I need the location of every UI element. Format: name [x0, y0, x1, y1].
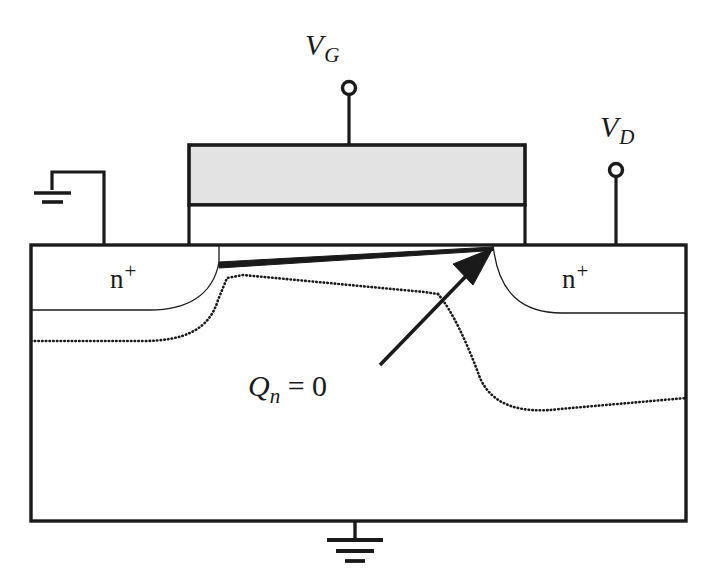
drain-voltage-label: VD	[600, 110, 635, 149]
pinchoff-subscript: n	[270, 384, 281, 408]
gate-electrode	[189, 145, 525, 205]
mosfet-cross-section-diagram: VG VD n+ n+ Qn = 0	[0, 0, 715, 583]
drain-terminal-lead	[610, 164, 623, 247]
gate-voltage-subscript: G	[324, 43, 339, 67]
figure-canvas: VG VD n+ n+ Qn = 0	[0, 0, 715, 583]
gate-terminal-lead	[343, 82, 356, 147]
source-region-superscript: +	[125, 259, 137, 283]
pinchoff-symbol: Q	[248, 369, 270, 402]
drain-region-base: n	[562, 264, 576, 294]
gate-stack	[189, 145, 525, 246]
gate-terminal-node-circle	[343, 82, 356, 95]
source-region-base: n	[110, 264, 124, 294]
gate-voltage-label: VG	[305, 28, 340, 67]
pinchoff-rest: = 0	[280, 369, 327, 402]
source-ground-lead	[34, 172, 104, 246]
substrate-body	[31, 245, 686, 521]
body-ground-lead	[327, 521, 383, 561]
source-ground-wire	[52, 172, 104, 246]
drain-terminal-node-circle	[610, 164, 623, 177]
drain-voltage-subscript: D	[618, 125, 634, 149]
gate-oxide	[189, 205, 525, 246]
drain-region-superscript: +	[577, 259, 589, 283]
